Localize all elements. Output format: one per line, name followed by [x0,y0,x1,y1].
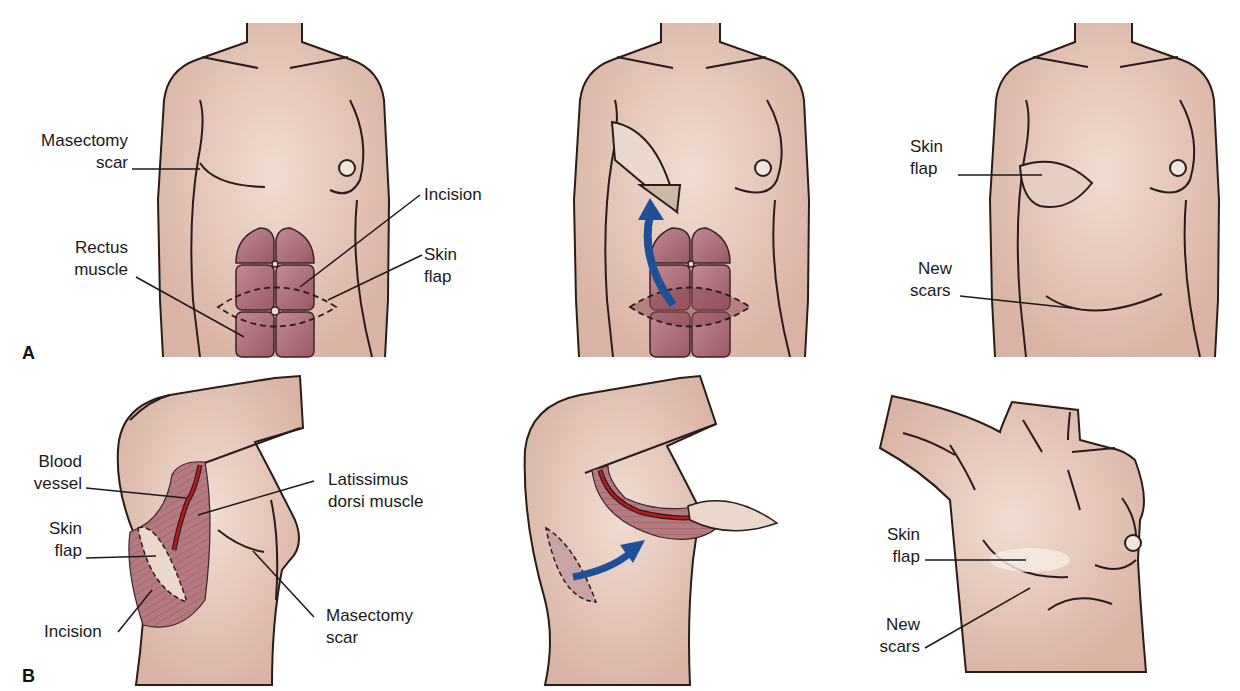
label-skin-flap-b-result: Skin flap [860,524,920,568]
label-line: muscle [10,259,128,281]
label-incision-b: Incision [44,621,102,643]
label-blood-vessel: Blood vessel [10,451,82,495]
label-new-scars-b: New scars [860,614,920,658]
figure-illustration [0,0,1240,691]
label-line: Skin [424,244,457,266]
label-line: scar [326,627,413,649]
panel-a-step3-torso [990,23,1219,357]
label-line: Skin [10,518,82,540]
label-line: scars [860,636,920,658]
label-incision-a: Incision [424,184,482,206]
label-line: vessel [10,473,82,495]
label-line: scar [10,152,128,174]
label-line: Rectus [10,237,128,259]
label-line: dorsi muscle [328,491,423,513]
label-line: flap [910,158,943,180]
label-masectomy-scar-a: Masectomy scar [10,130,128,174]
label-line: scars [910,280,952,302]
label-line: Latissimus [328,469,423,491]
label-masectomy-scar-b: Masectomy scar [326,605,413,649]
label-line: Skin [860,524,920,546]
label-line: flap [424,266,457,288]
label-new-scars-a: New scars [910,258,952,302]
label-skin-flap-a: Skin flap [424,244,457,288]
label-rectus-muscle: Rectus muscle [10,237,128,281]
label-line: New [910,258,952,280]
label-line: flap [10,540,82,562]
label-skin-flap-b: Skin flap [10,518,82,562]
panel-label-a: A [22,343,35,364]
label-line: Skin [910,136,943,158]
label-line: Masectomy [326,605,413,627]
label-latissimus-dorsi: Latissimus dorsi muscle [328,469,423,513]
label-line: Blood [10,451,82,473]
label-skin-flap-a-result: Skin flap [910,136,943,180]
panel-label-b: B [22,666,35,687]
label-line: Masectomy [10,130,128,152]
label-line: flap [860,546,920,568]
label-line: New [860,614,920,636]
